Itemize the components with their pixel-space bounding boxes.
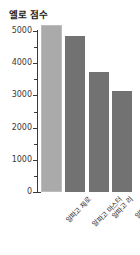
- bar-4: [112, 91, 132, 192]
- category-label-1: 알파고 제로: [64, 196, 92, 224]
- bar-1: [41, 25, 62, 192]
- y-tick-major: [33, 63, 38, 64]
- y-tick-minor: [34, 79, 38, 80]
- y-tick-label: 5000: [12, 27, 32, 35]
- y-tick-minor: [34, 112, 38, 113]
- y-tick-label: 2000: [12, 124, 32, 132]
- y-tick-minor: [34, 47, 38, 48]
- category-label-4: 알파고 판: [134, 196, 140, 220]
- y-tick-label: 3000: [12, 91, 32, 99]
- y-tick-major: [33, 192, 38, 193]
- y-tick-major: [33, 95, 38, 96]
- bar-3: [89, 72, 109, 192]
- y-tick-minor: [34, 144, 38, 145]
- y-tick-major: [33, 128, 38, 129]
- y-tick-label: 4000: [12, 59, 32, 67]
- plot-area: 010002000300040005000 알파고 제로알파고 마스터알파고 리…: [0, 0, 140, 255]
- elo-score-bar-chart: 엘로 점수 010002000300040005000 알파고 제로알파고 마스…: [0, 0, 140, 255]
- y-tick-label: 1000: [12, 156, 32, 164]
- y-tick-major: [33, 160, 38, 161]
- y-tick-minor: [34, 176, 38, 177]
- y-tick-major: [33, 31, 38, 32]
- bar-2: [65, 36, 85, 192]
- y-tick-label: 0: [27, 188, 32, 196]
